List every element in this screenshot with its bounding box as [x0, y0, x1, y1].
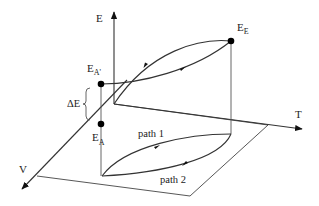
delta-e-brace: [83, 88, 90, 120]
v-axis: [22, 80, 127, 189]
state-path-diagram: E T V EA' EA EE ΔE path 1 path 2: [0, 0, 319, 206]
delta-e-label: ΔE: [67, 98, 80, 109]
upper-path-forward: [101, 41, 231, 84]
e-e-dot: [228, 38, 235, 45]
v-axis-label: V: [19, 163, 27, 175]
e-a-dot: [98, 121, 105, 128]
e-a-prime-dot: [98, 81, 105, 88]
path-1-curve: [102, 134, 231, 176]
path-2-curve: [102, 134, 231, 176]
e-e-label: EE: [237, 21, 249, 36]
t-axis: [114, 104, 302, 129]
e-a-prime-label: EA': [87, 62, 102, 77]
t-axis-label: T: [295, 108, 302, 120]
floor-plane: [37, 104, 268, 196]
path-2-label: path 2: [160, 174, 186, 185]
path-1-arrow: [154, 145, 160, 149]
upper-path-return: [114, 41, 231, 104]
e-axis-label: E: [96, 12, 103, 24]
upper-forward-arrow: [180, 67, 186, 72]
path-1-label: path 1: [138, 128, 164, 139]
e-a-label: EA: [92, 131, 105, 147]
